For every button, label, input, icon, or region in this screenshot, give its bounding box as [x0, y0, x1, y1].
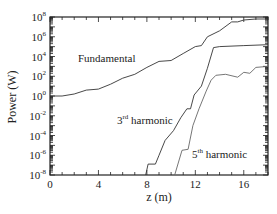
x-tick-label: 12 — [190, 178, 201, 190]
plot-svg: 0481216 10810610410210010-210-410-610-8 … — [0, 0, 277, 214]
y-tick-label: 104 — [32, 50, 47, 63]
y-tick-label: 106 — [32, 30, 47, 43]
x-axis-label: z (m) — [146, 190, 172, 204]
y-tick-label: 10-6 — [29, 148, 46, 161]
x-tick-label: 8 — [144, 178, 150, 190]
y-tick-label: 100 — [32, 89, 47, 102]
curve-annotations: Fundamental3rd harmonic5th harmonic — [78, 52, 247, 160]
x-axis-ticks: 0481216 — [47, 17, 268, 190]
annotation-label: Fundamental — [78, 52, 135, 64]
annotation-label: 5th harmonic — [192, 147, 247, 160]
power-vs-z-chart: 0481216 10810610410210010-210-410-610-8 … — [0, 0, 277, 214]
x-tick-label: 4 — [96, 178, 102, 190]
y-tick-label: 10-4 — [29, 129, 46, 142]
x-tick-label: 16 — [238, 178, 250, 190]
annotation-label: 3rd harmonic — [117, 113, 173, 126]
y-tick-label: 102 — [32, 69, 47, 82]
y-tick-label: 108 — [32, 10, 47, 23]
y-tick-label: 10-2 — [29, 109, 46, 122]
y-axis-label: Power (W) — [5, 71, 19, 124]
y-tick-label: 10-8 — [29, 168, 46, 181]
x-tick-label: 0 — [47, 178, 53, 190]
